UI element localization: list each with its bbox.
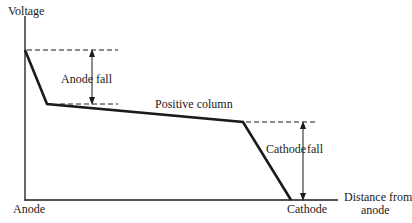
anode-label: Anode	[13, 202, 45, 216]
x-axis-label-line1: Distance from	[344, 190, 412, 204]
voltage-distribution-diagram: Voltage Anode fall Positive column Catho…	[0, 0, 412, 223]
y-axis-label: Voltage	[8, 4, 44, 18]
cathode-fall-label-fall: fall	[307, 142, 324, 156]
cathode-label: Cathode	[287, 202, 327, 216]
x-axis-label-line2: anode	[361, 203, 390, 217]
anode-fall-label-fall: fall	[96, 72, 113, 86]
positive-column-label: Positive column	[155, 97, 233, 111]
anode-fall-label-anode: Anode	[61, 72, 93, 86]
cathode-fall-label-cathode: Cathode	[266, 142, 306, 156]
